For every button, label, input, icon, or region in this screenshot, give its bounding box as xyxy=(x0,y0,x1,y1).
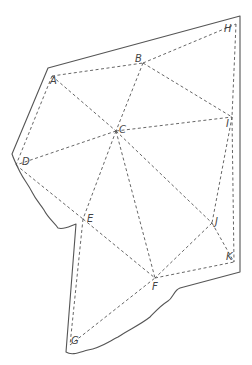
triangulated-polygon-diagram: ABHCIDEJKFG xyxy=(0,0,252,365)
edge-e-f xyxy=(83,219,155,278)
edge-j-f xyxy=(155,223,212,278)
edge-i-j xyxy=(212,117,232,223)
vertex-label-d: D xyxy=(22,156,30,167)
edge-c-i xyxy=(116,117,232,131)
edge-c-e xyxy=(83,131,116,219)
edge-a-d xyxy=(16,76,52,165)
edge-a-b xyxy=(52,63,143,76)
edge-f-k xyxy=(155,262,234,278)
edge-c-d xyxy=(16,131,116,165)
vertex-label-e: E xyxy=(87,213,94,224)
polygon-outline xyxy=(12,16,240,354)
edge-h-i xyxy=(232,24,236,117)
vertex-label-f: F xyxy=(152,281,158,292)
vertex-label-i: I xyxy=(226,118,229,129)
edge-c-j xyxy=(116,131,212,223)
vertex-label-g: G xyxy=(71,335,79,346)
vertex-label-b: B xyxy=(135,53,142,64)
edge-d-e xyxy=(16,165,83,219)
vertex-labels: ABHCIDEJKFG xyxy=(22,23,234,346)
vertex-label-c: C xyxy=(119,124,126,135)
edge-i-k xyxy=(232,117,234,262)
vertex-label-h: H xyxy=(224,23,232,34)
edge-g-f xyxy=(70,278,155,345)
edge-b-i xyxy=(143,63,232,117)
edge-a-c xyxy=(52,76,116,131)
edge-c-f xyxy=(116,131,155,278)
edge-b-c xyxy=(116,63,143,131)
vertex-label-k: K xyxy=(226,251,234,262)
dashed-edges xyxy=(16,24,236,345)
vertex-label-a: A xyxy=(49,75,57,86)
